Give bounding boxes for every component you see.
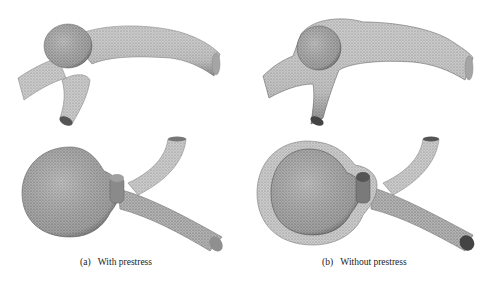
mesh-side-view-with-prestress: [0, 0, 243, 135]
caption-text: With prestress: [98, 257, 152, 267]
caption-a: (a) With prestress: [80, 257, 152, 267]
caption-tag: (b): [322, 257, 333, 267]
mesh-top-view-without-prestress: [243, 133, 486, 253]
caption-b: (b) Without prestress: [322, 257, 407, 267]
figure: (a) With prestress: [0, 0, 486, 289]
caption-text: Without prestress: [340, 257, 406, 267]
mesh-side-view-without-prestress: [243, 0, 486, 135]
caption-tag: (a): [80, 257, 91, 267]
panel-b: (b) Without prestress: [243, 0, 486, 289]
mesh-top-view-with-prestress: [0, 133, 243, 253]
panel-a: (a) With prestress: [0, 0, 243, 289]
